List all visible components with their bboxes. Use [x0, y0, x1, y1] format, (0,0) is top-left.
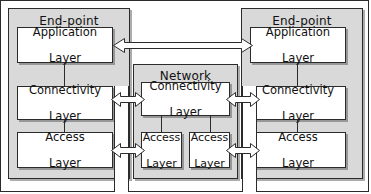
layer-endpoint-left-access: Access Layer [17, 132, 113, 168]
layer-network-connectivity: Connectivity Layer [141, 82, 230, 116]
layer-network-connectivity-label: Connectivity Layer [149, 80, 221, 119]
layer-network-access-right: Access Layer [189, 132, 230, 168]
layer-endpoint-right-application-label: Application Layer [266, 26, 330, 65]
layer-endpoint-left-connectivity-label: Connectivity Layer [29, 84, 101, 123]
layer-network-access-left-label: Access Layer [143, 131, 181, 170]
arrow-access-link-right [226, 142, 260, 159]
layer-network-access-right-label: Access Layer [191, 131, 229, 170]
arrow-application-peer-link [113, 37, 253, 54]
layer-endpoint-right-connectivity-label: Connectivity Layer [262, 84, 334, 123]
layer-endpoint-left-application-label: Application Layer [33, 26, 97, 65]
layer-endpoint-left-connectivity: Connectivity Layer [17, 86, 113, 120]
layer-endpoint-right-access: Access Layer [250, 132, 346, 168]
layer-endpoint-right-access-label: Access Layer [278, 131, 317, 170]
arrow-connectivity-link-right [226, 91, 260, 108]
layer-endpoint-right-application: Application Layer [250, 27, 346, 63]
arrow-connectivity-link-left [111, 91, 145, 108]
layer-endpoint-left-application: Application Layer [17, 27, 113, 63]
network-layer-diagram: End-point Application Layer Connectivity… [0, 0, 371, 194]
arrow-access-link-left [111, 142, 145, 159]
layer-endpoint-right-connectivity: Connectivity Layer [250, 86, 346, 120]
layer-endpoint-left-access-label: Access Layer [45, 131, 84, 170]
layer-network-access-left: Access Layer [141, 132, 182, 168]
